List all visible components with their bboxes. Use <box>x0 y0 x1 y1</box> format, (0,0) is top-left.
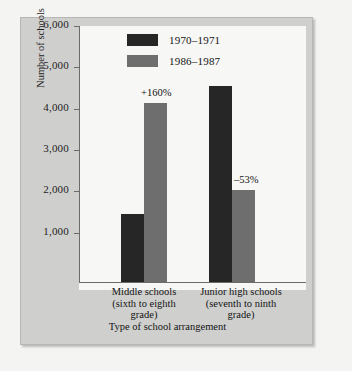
annotation-minus-53: –53% <box>234 174 259 185</box>
y-tick-label-4000: 4,000 <box>43 101 69 113</box>
y-tick-label-6000: 6,000 <box>43 18 69 30</box>
x-axis-title: Type of school arrangement <box>21 321 314 332</box>
legend-label-1970-1971: 1970–1971 <box>169 34 220 46</box>
legend-item-1986-1987: 1986–1987 <box>127 55 220 67</box>
y-tick-label-3000: 3,000 <box>43 142 69 154</box>
y-tick-label-1000: 1,000 <box>43 225 69 237</box>
legend-label-1986-1987: 1986–1987 <box>169 55 220 67</box>
legend-swatch-1986-1987 <box>127 55 158 67</box>
y-tick-4000: 4,000 <box>74 109 79 110</box>
bar-junior-high-1986-1987 <box>232 190 255 282</box>
bar-middle-schools-1970-1971 <box>121 214 144 282</box>
bar-middle-schools-1986-1987 <box>144 103 167 282</box>
legend: 1970–1971 1986–1987 <box>127 34 220 76</box>
legend-swatch-1970-1971 <box>127 34 158 46</box>
chart-panel: Number of schools 6,000 5,000 4,000 3,00… <box>20 17 313 345</box>
annotation-plus-160: +160% <box>141 87 171 98</box>
y-tick-label-2000: 2,000 <box>43 183 69 195</box>
y-tick-6000: 6,000 <box>74 26 79 27</box>
plot-area: 6,000 5,000 4,000 3,000 2,000 1,000 19 <box>79 26 306 290</box>
y-tick-5000: 5,000 <box>74 67 79 68</box>
figure-container: Number of schools 6,000 5,000 4,000 3,00… <box>0 0 352 371</box>
y-tick-label-5000: 5,000 <box>43 59 69 71</box>
y-tick-3000: 3,000 <box>74 150 79 151</box>
legend-item-1970-1971: 1970–1971 <box>127 34 220 46</box>
y-tick-2000: 2,000 <box>74 191 79 192</box>
bar-junior-high-1970-1971 <box>209 86 232 282</box>
y-axis-title: Number of schools <box>35 0 46 108</box>
y-tick-1000: 1,000 <box>74 233 79 234</box>
x-axis-line <box>79 282 306 283</box>
category-label-junior-high-schools: Junior high schools (seventh to ninth gr… <box>177 286 305 321</box>
y-axis-line <box>79 26 80 282</box>
